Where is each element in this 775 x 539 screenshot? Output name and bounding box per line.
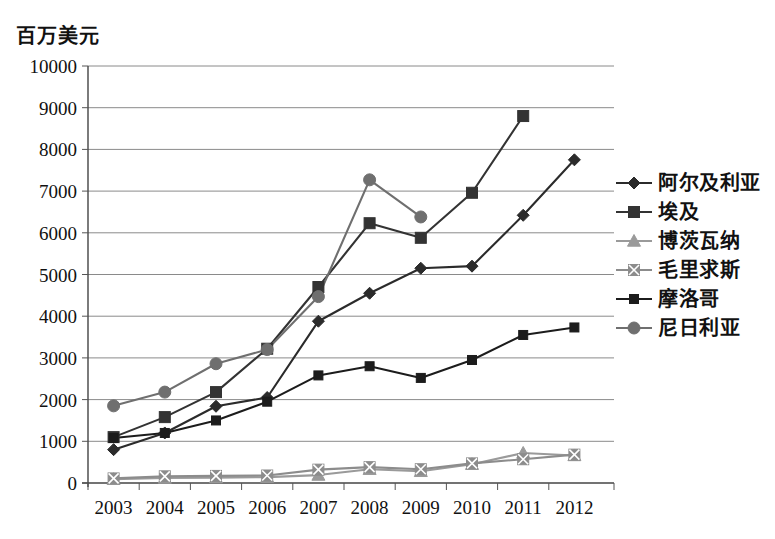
- data-point-4-1: [160, 428, 169, 437]
- y-tick-label: 1000: [39, 431, 77, 452]
- data-point-4-2: [212, 416, 221, 425]
- series-lines: [114, 116, 575, 479]
- y-tick-label: 4000: [39, 306, 77, 327]
- x-axis-ticks: 2003200420052006200720082009201020112012: [88, 483, 614, 518]
- x-tick-label: 2006: [248, 497, 286, 518]
- data-point-3-3: [262, 470, 273, 481]
- legend-marker-triangle-icon: [614, 231, 654, 251]
- data-point-1-7: [467, 187, 478, 198]
- legend-label-0: 阿尔及利亚: [654, 173, 761, 193]
- x-tick-label: 2004: [146, 497, 185, 518]
- y-tick-label: 3000: [39, 348, 77, 369]
- data-point-5-4: [312, 291, 324, 303]
- legend-marker-square-icon: [614, 202, 654, 222]
- data-point-4-8: [519, 330, 528, 339]
- legend-item-4[interactable]: 摩洛哥: [614, 284, 774, 313]
- data-point-legend-3: [629, 264, 640, 275]
- data-point-3-2: [211, 470, 222, 481]
- data-point-3-9: [569, 449, 580, 460]
- y-tick-label: 2000: [39, 390, 77, 411]
- data-point-legend-5: [628, 322, 640, 334]
- legend-marker-diamond-icon: [614, 173, 654, 193]
- data-point-legend-4: [630, 294, 639, 303]
- x-tick-label: 2012: [555, 497, 593, 518]
- legend-label-1: 埃及: [654, 202, 699, 222]
- y-tick-label: 5000: [39, 265, 77, 286]
- series-line-3: [114, 455, 575, 479]
- data-point-4-0: [109, 433, 118, 442]
- x-tick-label: 2008: [351, 497, 389, 518]
- data-point-4-4: [314, 371, 323, 380]
- legend-marker-cross-square-icon: [614, 260, 654, 280]
- data-point-4-6: [416, 373, 425, 382]
- series-line-1: [114, 116, 524, 437]
- x-tick-label: 2003: [95, 497, 133, 518]
- data-point-3-1: [159, 471, 170, 482]
- y-tick-label: 7000: [39, 181, 77, 202]
- legend-item-3[interactable]: 毛里求斯: [614, 255, 774, 284]
- data-point-4-5: [365, 362, 374, 371]
- data-point-3-5: [364, 462, 375, 473]
- legend-label-3: 毛里求斯: [654, 260, 740, 280]
- data-point-3-8: [518, 454, 529, 465]
- data-point-3-6: [415, 464, 426, 475]
- y-tick-label: 8000: [39, 139, 77, 160]
- data-point-4-3: [263, 397, 272, 406]
- data-point-3-0: [108, 473, 119, 484]
- data-point-0-5: [364, 287, 376, 299]
- data-point-5-2: [210, 358, 222, 370]
- x-tick-label: 2009: [402, 497, 440, 518]
- data-point-3-4: [313, 464, 324, 475]
- data-point-1-8: [518, 111, 529, 122]
- legend-marker-circle-icon: [614, 318, 654, 338]
- data-point-5-0: [108, 400, 120, 412]
- axes: [82, 66, 614, 487]
- data-point-1-5: [364, 218, 375, 229]
- data-point-5-3: [261, 344, 273, 356]
- data-point-0-2: [210, 400, 222, 412]
- data-point-legend-0: [628, 177, 640, 189]
- x-tick-label: 2005: [197, 497, 235, 518]
- data-point-0-6: [415, 262, 427, 274]
- data-point-5-6: [415, 211, 427, 223]
- data-point-0-4: [312, 315, 324, 327]
- data-point-4-7: [468, 355, 477, 364]
- legend-item-1[interactable]: 埃及: [614, 197, 774, 226]
- legend: 阿尔及利亚埃及博茨瓦纳毛里求斯摩洛哥尼日利亚: [614, 168, 774, 342]
- chart-container: 百万美元 01000200030004000500060007000800090…: [0, 0, 775, 539]
- y-tick-label: 9000: [39, 98, 77, 119]
- x-tick-label: 2011: [505, 497, 542, 518]
- legend-item-5[interactable]: 尼日利亚: [614, 313, 774, 342]
- x-tick-label: 2010: [453, 497, 491, 518]
- x-tick-label: 2007: [299, 497, 337, 518]
- data-point-5-5: [364, 174, 376, 186]
- legend-marker-small-square-icon: [614, 289, 654, 309]
- data-point-3-7: [467, 458, 478, 469]
- series-markers: [107, 111, 581, 485]
- legend-label-4: 摩洛哥: [654, 289, 720, 309]
- series-line-0: [114, 160, 575, 450]
- data-point-legend-1: [629, 206, 640, 217]
- legend-item-0[interactable]: 阿尔及利亚: [614, 168, 774, 197]
- data-point-0-0: [108, 444, 120, 456]
- legend-label-5: 尼日利亚: [654, 318, 740, 338]
- data-point-1-1: [159, 412, 170, 423]
- data-point-4-9: [570, 323, 579, 332]
- y-tick-label: 0: [68, 473, 78, 494]
- legend-label-2: 博茨瓦纳: [654, 231, 740, 251]
- data-point-1-2: [211, 387, 222, 398]
- y-tick-label: 10000: [30, 56, 78, 77]
- legend-item-2[interactable]: 博茨瓦纳: [614, 226, 774, 255]
- data-point-5-1: [159, 386, 171, 398]
- gridlines: [88, 66, 614, 441]
- y-tick-label: 6000: [39, 223, 77, 244]
- y-axis-ticks: 0100020003000400050006000700080009000100…: [30, 56, 89, 494]
- data-point-1-6: [415, 232, 426, 243]
